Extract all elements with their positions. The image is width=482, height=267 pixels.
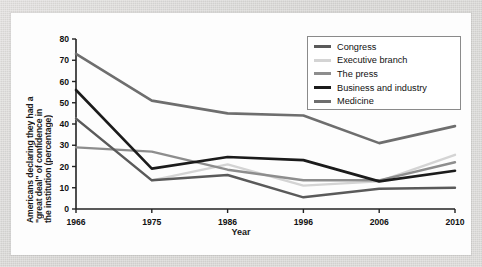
legend-label: Medicine (337, 96, 374, 106)
chart-card: Americans declaring they had a "great de… (11, 13, 471, 255)
y-tick-label: 80 (59, 34, 69, 44)
legend-label: The press (337, 69, 378, 79)
legend-swatch-icon (314, 72, 331, 75)
legend-item: Executive branch (314, 54, 460, 68)
legend-label: Congress (337, 42, 376, 52)
legend-item: Medicine (314, 94, 460, 108)
y-tick-label: 0 (64, 204, 69, 214)
y-tick-label: 50 (59, 98, 69, 108)
legend-item: The press (314, 67, 460, 81)
legend-label: Executive branch (337, 55, 407, 65)
legend-swatch-icon (314, 45, 331, 48)
legend-swatch-icon (314, 86, 331, 89)
chart-legend: CongressExecutive branchThe pressBusines… (307, 36, 461, 110)
legend-swatch-icon (314, 59, 331, 62)
y-tick-label: 20 (59, 162, 69, 172)
x-tick-label: 1996 (294, 217, 313, 227)
y-tick-label: 60 (59, 77, 69, 87)
x-tick-label: 1966 (66, 217, 85, 227)
legend-label: Business and industry (337, 83, 427, 93)
x-tick-label: 1975 (142, 217, 161, 227)
legend-item: Business and industry (314, 81, 460, 95)
legend-swatch-icon (314, 100, 331, 103)
x-tick-label: 2010 (445, 217, 464, 227)
y-tick-label: 10 (59, 183, 69, 193)
y-tick-label: 40 (59, 119, 69, 129)
x-tick-label: 1986 (218, 217, 237, 227)
x-axis-title: Year (11, 227, 471, 237)
chart-screenshot: Americans declaring they had a "great de… (0, 0, 482, 267)
y-tick-label: 30 (59, 140, 69, 150)
y-tick-label: 70 (59, 55, 69, 65)
x-tick-label: 2006 (370, 217, 389, 227)
legend-item: Congress (314, 40, 460, 54)
